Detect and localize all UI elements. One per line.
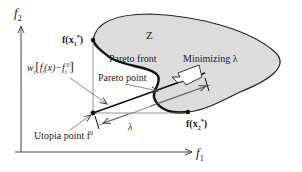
f2-axis-label: f2	[14, 6, 22, 23]
f-x1-star-point	[91, 38, 95, 42]
utopia-point	[91, 111, 96, 116]
pareto-front-label: Pareto front	[109, 54, 157, 64]
region-z-label: Z	[146, 30, 153, 41]
f-x2-star-label: f(x2*)	[186, 118, 207, 131]
pareto-point-pointer-arrow	[125, 84, 158, 91]
pareto-point-label: Pareto point	[98, 73, 147, 83]
lambda-label: λ	[128, 122, 132, 132]
diagram-canvas	[0, 0, 302, 172]
utopia-pointer-arrow	[70, 115, 91, 130]
f-x1-star-label: f(x1*)	[62, 34, 83, 47]
weighted-distance-expression: wi[fi(x)−fi0]	[27, 60, 74, 75]
utopia-point-label: Utopia point f0	[34, 130, 93, 141]
lambda-arrow-left	[103, 114, 128, 123]
lambda-tick-start	[95, 116, 99, 129]
minimizing-lambda-label: Minimizing λ	[183, 54, 238, 64]
f-x2-star-point	[186, 110, 190, 114]
f1-axis-label: f1	[196, 146, 204, 163]
pareto-diagram: f2 f1 Z Pareto front Pareto point Minimi…	[0, 0, 302, 172]
